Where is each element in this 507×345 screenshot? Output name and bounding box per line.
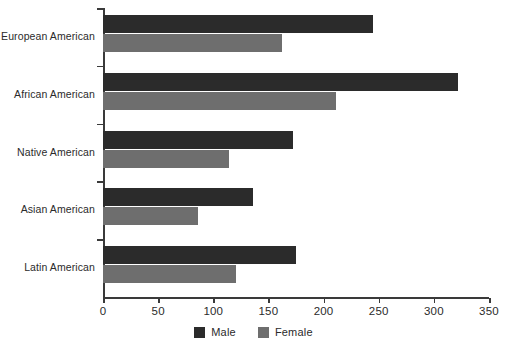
x-axis-tick-label: 200 [304,305,344,317]
category-label: African American [0,88,95,100]
x-axis-tick [489,298,491,303]
x-axis-line [103,297,489,299]
legend-label-male: Male [211,326,236,338]
bar-female [103,92,336,110]
x-axis-tick [158,298,160,303]
bar-male [103,246,296,264]
bar-female [103,150,229,168]
x-axis-tick-label: 50 [138,305,178,317]
bar-male [103,131,293,149]
bar-male [103,15,373,33]
category-label: Native American [0,146,95,158]
y-axis-tick [97,239,103,241]
x-axis-tick [434,298,436,303]
x-axis-tick-label: 150 [248,305,288,317]
legend-item-male[interactable]: Male [194,326,236,338]
y-axis-tick [97,66,103,68]
bar-female [103,207,198,225]
bar-chart: 050100150200250300350 European AmericanA… [0,0,507,345]
bar-male [103,188,253,206]
chart-legend: Male Female [0,326,507,338]
category-label: Asian American [0,203,95,215]
y-axis-tick [97,8,103,10]
x-axis-tick [379,298,381,303]
y-axis-tick [97,181,103,183]
x-axis-tick [213,298,215,303]
category-label: European American [0,30,95,42]
bar-female [103,265,236,283]
x-axis-tick-label: 250 [359,305,399,317]
x-axis-tick [103,298,105,303]
y-axis-tick [97,124,103,126]
x-axis-tick-label: 350 [469,305,507,317]
legend-swatch-male-icon [194,327,205,338]
category-label: Latin American [0,261,95,273]
x-axis-tick-label: 0 [83,305,123,317]
x-axis-tick [324,298,326,303]
x-axis-tick-label: 100 [193,305,233,317]
bar-male [103,73,458,91]
legend-label-female: Female [275,326,313,338]
x-axis-tick-label: 300 [414,305,454,317]
x-axis-tick [268,298,270,303]
bar-female [103,34,282,52]
legend-item-female[interactable]: Female [258,326,313,338]
legend-swatch-female-icon [258,327,269,338]
